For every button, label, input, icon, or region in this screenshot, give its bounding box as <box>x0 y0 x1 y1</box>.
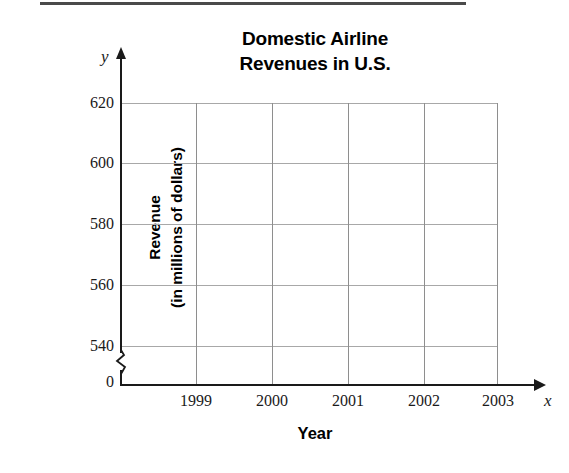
gridline-h-560 <box>121 285 498 286</box>
x-axis-label: Year <box>150 424 480 443</box>
plot-area <box>121 103 498 385</box>
x-axis-line <box>120 384 538 386</box>
y-tick-label-560: 560 <box>54 276 114 294</box>
x-tick-label-1999: 1999 <box>161 392 231 410</box>
axis-break-icon <box>112 350 132 374</box>
y-tick-label-0: 0 <box>54 373 114 391</box>
y-axis-variable-label: y <box>101 47 109 67</box>
chart-figure: Domestic Airline Revenues in U.S. Revenu… <box>0 0 569 473</box>
gridline-h-580 <box>121 224 498 225</box>
y-tick-label-540: 540 <box>54 337 114 355</box>
gridline-v-2000 <box>272 103 273 385</box>
y-axis-arrow-icon <box>116 47 126 59</box>
gridline-v-2002 <box>424 103 425 385</box>
gridline-h-620 <box>121 103 498 104</box>
gridline-h-540 <box>121 346 498 347</box>
y-axis-line <box>120 57 122 353</box>
y-tick-label-600: 600 <box>54 154 114 172</box>
x-axis-variable-label: x <box>544 391 552 411</box>
chart-title-line-2: Revenues in U.S. <box>150 51 480 76</box>
x-tick-label-2001: 2001 <box>313 392 383 410</box>
gridline-v-1999 <box>196 103 197 385</box>
x-tick-label-2000: 2000 <box>237 392 307 410</box>
y-tick-label-620: 620 <box>54 94 114 112</box>
x-tick-label-2002: 2002 <box>389 392 459 410</box>
y-tick-labels: 620 600 580 560 540 0 <box>52 0 114 473</box>
y-tick-label-580: 580 <box>54 215 114 233</box>
x-tick-label-2003: 2003 <box>463 392 533 410</box>
chart-title: Domestic Airline Revenues in U.S. <box>150 26 480 76</box>
gridline-v-2001 <box>348 103 349 385</box>
gridline-h-600 <box>121 163 498 164</box>
gridline-v-2003 <box>497 103 498 385</box>
x-axis-arrow-icon <box>534 379 546 391</box>
chart-title-line-1: Domestic Airline <box>150 26 480 51</box>
